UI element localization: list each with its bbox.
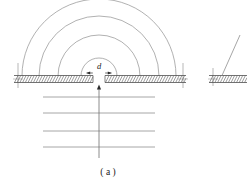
diffraction-diagram-canvas: d: [0, 0, 247, 185]
figure-background: [0, 0, 247, 185]
figure-caption: ( a ): [100, 167, 115, 178]
diffraction-figure: d: [0, 0, 247, 185]
